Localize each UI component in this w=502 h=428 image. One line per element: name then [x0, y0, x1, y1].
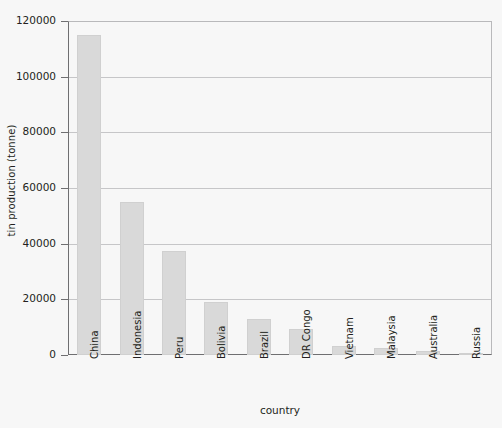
gridline	[69, 77, 491, 78]
y-axis-tick-label: 80000	[0, 126, 56, 137]
x-axis-category-label-text: Russia	[471, 314, 483, 359]
gridline	[69, 188, 491, 189]
x-axis-title-label: country	[260, 404, 300, 416]
y-axis-tick-label: 20000	[0, 293, 56, 304]
y-axis-tick	[61, 299, 68, 300]
y-axis-tick-label: 120000	[0, 15, 56, 26]
y-axis-tick	[61, 244, 68, 245]
bar-chart: tin production (tonne) country 020000400…	[0, 0, 502, 428]
x-axis-category-label-text: DR Congo	[301, 314, 313, 359]
y-axis-tick	[61, 188, 68, 189]
y-axis-tick-label: 40000	[0, 238, 56, 249]
x-axis-title: country	[68, 404, 492, 416]
y-axis-tick-label: 100000	[0, 71, 56, 82]
x-axis-category-label-text: China	[89, 314, 101, 359]
y-axis-tick-label: 0	[0, 349, 56, 360]
gridline	[69, 132, 491, 133]
y-axis-tick	[61, 132, 68, 133]
bar	[77, 35, 101, 355]
x-axis-category-label-text: Bolivia	[216, 314, 228, 359]
y-axis-tick	[61, 21, 68, 22]
y-axis-tick	[61, 355, 68, 356]
x-axis-category-label-text: Brazil	[259, 314, 271, 359]
x-axis-category-label-text: Peru	[174, 314, 186, 359]
y-axis-tick	[61, 77, 68, 78]
x-axis-category-label-text: Indonesia	[132, 314, 144, 359]
x-axis-category-label-text: Vietnam	[344, 314, 356, 359]
y-axis-title: tin production (tonne)	[0, 0, 24, 360]
x-axis-category-label-text: Malaysia	[386, 314, 398, 359]
y-axis-tick-label: 60000	[0, 182, 56, 193]
x-axis-category-label-text: Australia	[428, 314, 440, 359]
x-axis-category-label: Russia	[426, 359, 502, 373]
y-axis-title-label: tin production (tonne)	[7, 124, 18, 236]
